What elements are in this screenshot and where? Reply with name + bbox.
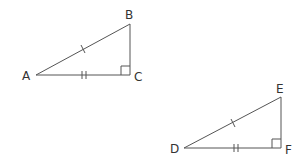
triangle-def: D E F xyxy=(170,82,292,157)
right-angle-mark-c xyxy=(121,66,130,75)
label-f: F xyxy=(285,143,292,157)
right-angle-mark-f xyxy=(272,139,281,148)
triangles-diagram: A B C D E F xyxy=(0,0,307,165)
triangle-abc: A B C xyxy=(22,8,142,84)
label-a: A xyxy=(22,69,31,83)
label-b: B xyxy=(125,8,133,22)
label-e: E xyxy=(276,82,284,96)
label-d: D xyxy=(170,142,179,156)
label-c: C xyxy=(134,70,142,84)
